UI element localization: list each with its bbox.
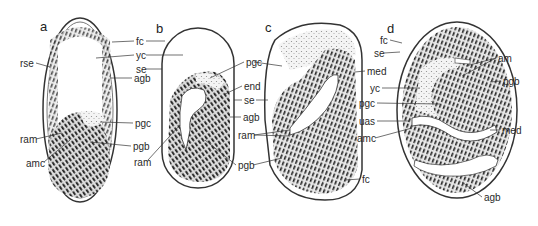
- embryo-c: [265, 23, 362, 200]
- label-agb: agb: [484, 193, 501, 203]
- label-ram: ram: [238, 131, 255, 141]
- panel-label-b: b: [156, 22, 163, 35]
- label-amc: amc: [26, 159, 45, 169]
- label-ram: ram: [20, 135, 37, 145]
- label-am: am: [498, 54, 512, 64]
- label-pgc: pgc: [135, 119, 151, 129]
- panel-label-d: d: [387, 22, 394, 35]
- label-fc: fc: [362, 175, 370, 185]
- label-pgc: pgc: [359, 99, 375, 109]
- label-se: se: [374, 49, 385, 59]
- label-yc: yc: [136, 51, 146, 61]
- label-rse: rse: [20, 59, 34, 69]
- label-pgc: pgc: [246, 58, 262, 68]
- panel-label-a: a: [40, 20, 47, 33]
- label-fc: fc: [380, 36, 388, 46]
- label-agb: agb: [134, 74, 151, 84]
- label-agb: agb: [243, 113, 260, 123]
- label-se: se: [244, 96, 255, 106]
- label-end: end: [244, 82, 261, 92]
- label-amc: amc: [357, 134, 376, 144]
- label-uas: uas: [359, 117, 375, 127]
- label-pgb: pgb: [238, 161, 255, 171]
- label-ram: ram: [134, 158, 151, 168]
- label-fc: fc: [136, 37, 144, 47]
- label-yc: yc: [370, 84, 380, 94]
- panel-label-c: c: [265, 21, 272, 34]
- embryo-b: [162, 28, 234, 188]
- label-med: med: [367, 67, 386, 77]
- label-pgb: pgb: [133, 142, 150, 152]
- embryo-a: [43, 18, 117, 202]
- embryo-d: [397, 22, 517, 198]
- label-med: med: [502, 126, 521, 136]
- label-pgb: pgb: [503, 77, 520, 87]
